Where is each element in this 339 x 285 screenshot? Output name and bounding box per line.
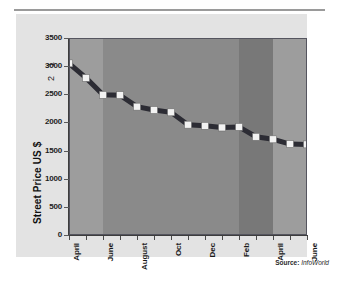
y-tick-label: 1000 — [45, 175, 62, 183]
x-tick-mark — [69, 236, 70, 240]
x-tick-mark — [120, 236, 121, 240]
x-tick-label: August — [140, 243, 149, 270]
x-tick-mark — [273, 236, 274, 240]
source-credit-name: InfoWorld — [301, 259, 329, 266]
x-tick-label: Dec — [208, 243, 217, 257]
x-tick-mark — [171, 236, 172, 240]
y-tick-mark — [64, 66, 69, 67]
data-point-marker — [69, 60, 73, 67]
x-tick-label: April — [72, 243, 81, 261]
data-point-marker — [117, 92, 124, 99]
data-point-marker — [304, 141, 308, 148]
y-tick-label-wrap: 500 — [34, 203, 62, 211]
data-point-marker — [100, 91, 107, 98]
x-tick-mark — [256, 236, 257, 240]
data-point-marker — [83, 74, 90, 81]
y-tick-label: 2000 — [45, 118, 62, 126]
x-tick-mark — [290, 236, 291, 240]
data-point-marker — [253, 133, 260, 140]
data-point-marker — [219, 124, 226, 131]
x-tick-mark — [239, 236, 240, 240]
y-tick-mark — [64, 38, 69, 39]
y-tick-label-wrap: 2000 — [34, 118, 62, 126]
y-tick-mark — [64, 151, 69, 152]
data-point-marker — [236, 123, 243, 130]
x-tick-label: Feb — [242, 243, 251, 257]
y-tick-label: 2500 — [45, 90, 62, 98]
y-tick-label: 1500 — [45, 147, 62, 155]
source-credit: Source: InfoWorld — [275, 259, 329, 266]
y-tick-label-wrap: 2500 — [34, 90, 62, 98]
data-point-marker — [202, 122, 209, 129]
plot-area — [69, 38, 307, 235]
line-path — [69, 63, 307, 144]
y-tick-label-wrap: 1000 — [34, 175, 62, 183]
x-tick-mark — [154, 236, 155, 240]
x-tick-mark — [103, 236, 104, 240]
y-tick-label: 0 — [58, 231, 62, 239]
x-tick-mark — [307, 236, 308, 240]
x-tick-mark — [222, 236, 223, 240]
x-tick-mark — [86, 236, 87, 240]
y-tick-label-wrap: 0 — [34, 231, 62, 239]
source-credit-prefix: Source: — [275, 259, 299, 266]
chart-figure: Street Price US $ 1 2 050010001500200025… — [0, 0, 339, 285]
data-point-markers — [69, 60, 307, 148]
x-tick-mark — [188, 236, 189, 240]
series-line-street-price — [69, 38, 307, 235]
x-tick-mark — [137, 236, 138, 240]
y-tick-label: 3500 — [45, 34, 62, 42]
y-tick-mark — [64, 94, 69, 95]
footnote-ref-2: 2 — [46, 76, 56, 81]
y-tick-label: 500 — [49, 203, 62, 211]
y-tick-label-wrap: 3000 — [34, 62, 62, 70]
data-point-marker — [151, 107, 158, 114]
data-point-marker — [168, 109, 175, 116]
data-point-marker — [185, 121, 192, 128]
data-point-marker — [270, 136, 277, 143]
y-tick-label: 3000 — [45, 62, 62, 70]
y-tick-mark — [64, 207, 69, 208]
y-tick-mark — [64, 179, 69, 180]
x-tick-label: Oct — [174, 243, 183, 256]
data-point-marker — [287, 141, 294, 148]
top-divider-rule — [14, 9, 325, 11]
x-tick-mark — [205, 236, 206, 240]
x-tick-label: June — [106, 243, 115, 261]
y-tick-label-wrap: 1500 — [34, 147, 62, 155]
y-tick-label-wrap: 3500 — [34, 34, 62, 42]
y-tick-mark — [64, 122, 69, 123]
data-point-marker — [134, 103, 141, 110]
